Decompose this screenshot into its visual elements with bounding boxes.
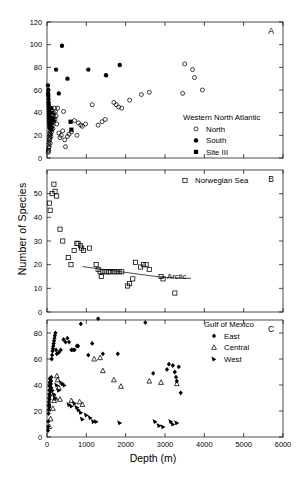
- data-point-open-triangle: [159, 380, 164, 385]
- legend-label: Central: [224, 343, 249, 352]
- data-point-filled-diamond: [174, 375, 178, 380]
- data-point-filled-diamond: [79, 322, 83, 327]
- x-tick-label: 6000: [275, 440, 291, 449]
- annotation-label: Arctic: [167, 272, 187, 281]
- data-point-open-circle: [191, 68, 195, 72]
- data-point-open-triangle: [51, 406, 56, 411]
- y-tick-label: 0: [38, 154, 42, 163]
- data-point-filled-diamond: [50, 353, 54, 358]
- data-point-open-triangle: [58, 397, 63, 402]
- data-point-filled-diamond: [101, 351, 105, 356]
- legend-label: Norwegian Sea: [195, 176, 249, 185]
- data-point-filled-left-triangle: [94, 419, 99, 424]
- legend-a: Western North AtlanticNorthSouthSite III: [183, 113, 261, 157]
- data-point-open-square: [101, 270, 105, 274]
- data-point-filled-circle: [104, 73, 108, 77]
- data-point-filled-left-triangle: [117, 420, 122, 425]
- data-point-filled-left-triangle: [88, 415, 93, 420]
- data-point-open-circle: [128, 98, 132, 102]
- legend-title: Gulf of Mexico: [204, 320, 254, 329]
- data-point-open-square: [55, 194, 59, 198]
- data-point-filled-square: [69, 120, 73, 124]
- data-point-filled-circle: [65, 76, 69, 80]
- data-point-open-square: [66, 255, 70, 259]
- data-point-filled-circle: [54, 67, 58, 71]
- data-point-open-square: [183, 178, 187, 182]
- legend-label: South: [206, 136, 226, 145]
- x-tick-label: 2000: [117, 440, 133, 449]
- data-point-open-circle: [90, 103, 94, 107]
- data-point-open-circle: [84, 122, 88, 126]
- panel-letter-b: B: [268, 174, 274, 184]
- legend-label: East: [224, 332, 240, 341]
- data-point-open-circle: [139, 93, 143, 97]
- data-point-filled-diamond: [50, 357, 54, 362]
- data-point-open-square: [144, 263, 148, 267]
- data-point-filled-circle: [57, 91, 61, 95]
- legend-label: West: [224, 355, 242, 364]
- legend-c: Gulf of MexicoEastCentralWest: [204, 320, 254, 364]
- x-tick-label: 0: [45, 440, 49, 449]
- data-point-open-triangle: [212, 345, 217, 350]
- data-point-open-circle: [62, 110, 66, 114]
- data-point-filled-circle: [60, 44, 64, 48]
- plot-panel-c: 0100020003000400050006000020406080C: [34, 316, 291, 449]
- data-point-open-square: [58, 227, 62, 231]
- data-point-open-square: [173, 291, 177, 295]
- data-point-open-triangle: [98, 355, 103, 360]
- data-point-open-circle: [183, 62, 187, 66]
- y-tick-label: 60: [34, 355, 42, 364]
- x-tick-label: 4000: [196, 440, 212, 449]
- legend-label: Site III: [206, 148, 228, 157]
- data-point-open-square: [147, 267, 151, 271]
- figure-root: Number of Species Depth (m) 020406080100…: [0, 0, 306, 481]
- data-point-open-circle: [73, 119, 77, 123]
- data-point-open-circle: [114, 103, 118, 107]
- data-point-filled-left-triangle: [84, 413, 89, 418]
- data-point-open-circle: [112, 100, 116, 104]
- legend-b: Norwegian Sea: [183, 176, 249, 185]
- data-point-open-square: [133, 260, 137, 264]
- series-central: [47, 355, 179, 429]
- x-tick-label: 3000: [157, 440, 173, 449]
- data-point-filled-circle: [194, 138, 198, 142]
- data-point-open-circle: [55, 122, 59, 126]
- panel-letter-a: A: [268, 26, 274, 36]
- data-point-filled-circle: [49, 126, 53, 130]
- data-point-open-square: [69, 263, 73, 267]
- data-point-filled-left-triangle: [157, 423, 162, 428]
- legend-label: North: [206, 125, 225, 134]
- data-point-filled-circle: [50, 110, 54, 114]
- data-point-filled-circle: [48, 122, 52, 126]
- data-point-filled-diamond: [167, 362, 171, 367]
- data-point-filled-circle: [49, 106, 53, 110]
- data-point-filled-diamond: [86, 353, 90, 358]
- y-tick-label: 10: [34, 284, 42, 293]
- y-tick-label: 50: [34, 189, 42, 198]
- data-point-filled-diamond: [96, 316, 100, 321]
- y-tick-label: 60: [34, 86, 42, 95]
- trend-line: [82, 267, 163, 278]
- data-point-filled-circle: [86, 67, 90, 71]
- legend-title: Western North Atlantic: [183, 113, 261, 122]
- y-tick-label: 20: [34, 260, 42, 269]
- data-point-filled-diamond: [212, 334, 216, 339]
- data-point-open-triangle: [119, 384, 124, 389]
- data-point-open-square: [61, 239, 65, 243]
- data-point-open-square: [72, 248, 76, 252]
- data-point-open-triangle: [92, 356, 97, 361]
- data-point-open-triangle: [100, 368, 105, 373]
- data-point-open-circle: [103, 117, 107, 121]
- data-point-open-circle: [76, 121, 80, 125]
- data-point-open-square: [131, 277, 135, 281]
- data-point-open-circle: [63, 138, 67, 142]
- plot-panel-a: 020406080100120A: [30, 18, 283, 163]
- data-point-open-circle: [57, 131, 61, 135]
- panel-letter-c: C: [268, 324, 274, 334]
- data-point-filled-diamond: [179, 390, 183, 395]
- data-point-open-circle: [147, 90, 151, 94]
- data-point-open-triangle: [147, 379, 152, 384]
- data-point-filled-left-triangle: [62, 383, 67, 388]
- data-point-filled-diamond: [173, 370, 177, 375]
- data-point-filled-left-triangle: [78, 410, 83, 415]
